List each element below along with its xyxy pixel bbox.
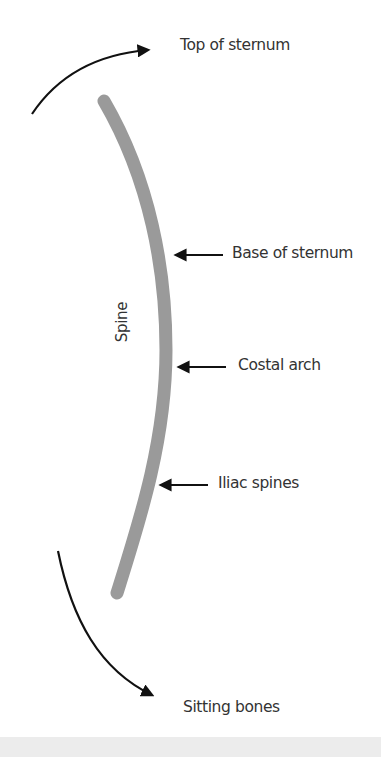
footer-band: [0, 737, 381, 757]
label-iliac-spines: Iliac spines: [218, 474, 299, 492]
spine-shape: [104, 101, 166, 593]
label-top-of-sternum: Top of sternum: [180, 36, 290, 54]
spine-label: Spine: [113, 302, 131, 342]
top-of-sternum-arrow: [32, 50, 148, 114]
label-sitting-bones: Sitting bones: [183, 698, 280, 716]
sitting-bones-arrow: [58, 551, 152, 695]
diagram-canvas: [0, 0, 381, 757]
label-costal-arch: Costal arch: [238, 356, 321, 374]
label-base-of-sternum: Base of sternum: [232, 244, 353, 262]
